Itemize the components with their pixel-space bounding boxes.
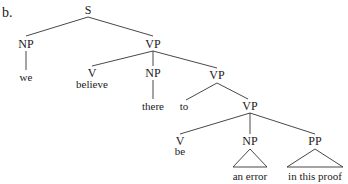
node-vp-main: VP [145,38,160,50]
node-vp-be: VP [242,100,257,112]
node-vp-infinitival: VP [209,69,224,81]
leaf-an-error: an error [233,171,268,182]
node-np-object: NP [145,67,160,79]
node-np-subject: NP [18,38,33,50]
leaf-we: we [20,72,33,83]
leaf-be: be [175,146,185,157]
node-pp: PP [308,135,321,147]
leaf-in-this-proof: in this proof [288,171,342,182]
node-np-predicate: NP [242,135,257,147]
leaf-believe: believe [76,79,108,90]
node-s: S [85,4,92,16]
leaf-there: there [142,101,164,112]
leaf-to: to [180,101,189,112]
